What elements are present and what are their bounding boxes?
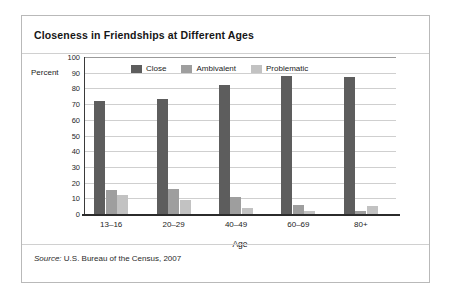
source-note: Source: U.S. Bureau of the Census, 2007 [34,254,181,263]
legend-label: Ambivalent [196,64,236,73]
y-tick-label: 0 [76,210,80,219]
bar-close[interactable] [157,99,168,214]
legend-label: Problematic [266,64,308,73]
chart-legend: CloseAmbivalentProblematic [131,64,308,73]
y-tick-label: 100 [67,53,80,62]
x-tick-label: 13–16 [100,220,122,229]
chart-card: Closeness in Friendships at Different Ag… [21,15,430,283]
y-tick-label: 10 [72,194,80,203]
legend-label: Close [146,64,166,73]
y-tick-label: 50 [72,131,80,140]
legend-entry-problematic[interactable]: Problematic [251,64,308,73]
source-label: Source: [34,254,62,263]
bar-problematic[interactable] [367,206,378,214]
bar-ambivalent[interactable] [168,189,179,214]
bar-close[interactable] [94,101,105,214]
x-axis-line [82,214,400,216]
bar-ambivalent[interactable] [106,190,117,214]
bar-close[interactable] [281,76,292,214]
y-tick-label: 70 [72,100,80,109]
y-axis-ticks: 1009080706050403020100 [56,57,80,214]
y-tick-label: 60 [72,115,80,124]
plot-area: CloseAmbivalentProblematic 13–1620–2940–… [84,57,396,214]
bar-close[interactable] [344,77,355,214]
bar-ambivalent[interactable] [293,205,304,214]
bar-group [209,57,271,214]
x-tick-label: 40–49 [225,220,247,229]
title-divider [22,53,429,54]
y-tick-label: 80 [72,84,80,93]
bar-ambivalent[interactable] [230,197,241,214]
legend-entry-ambivalent[interactable]: Ambivalent [181,64,236,73]
legend-swatch-icon [181,65,192,73]
bar-group [146,57,208,214]
source-value: U.S. Bureau of the Census, 2007 [62,254,182,263]
bar-ambivalent[interactable] [355,211,366,214]
x-tick-label: 20–29 [162,220,184,229]
bar-problematic[interactable] [180,200,191,214]
source-divider [22,244,429,245]
x-tick-label: 80+ [354,220,368,229]
y-tick-label: 90 [72,68,80,77]
x-tick-label: 60–69 [287,220,309,229]
bar-close[interactable] [219,85,230,214]
legend-swatch-icon [251,65,262,73]
bar-problematic[interactable] [117,195,128,214]
legend-swatch-icon [131,65,142,73]
y-tick-label: 20 [72,178,80,187]
bar-group [84,57,146,214]
chart-title: Closeness in Friendships at Different Ag… [34,29,254,41]
y-tick-label: 30 [72,162,80,171]
bar-group [334,57,396,214]
y-tick-label: 40 [72,147,80,156]
bar-problematic[interactable] [304,211,315,214]
legend-entry-close[interactable]: Close [131,64,166,73]
bar-group [271,57,333,214]
bar-layer [84,57,396,214]
y-axis-title: Percent [31,68,59,77]
bar-problematic[interactable] [242,208,253,214]
